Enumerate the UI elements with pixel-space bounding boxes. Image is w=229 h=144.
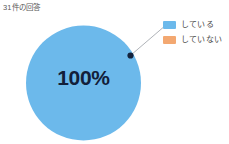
legend-label-shiteiru: している — [181, 20, 214, 30]
legend-label-shiteinai: していない — [181, 35, 222, 45]
legend-swatch-shiteiru-icon — [163, 21, 176, 29]
legend-item-shiteiru[interactable]: している — [163, 19, 222, 30]
pie-slice-shiteiru[interactable] — [26, 26, 141, 141]
pie-chart-card: 31件の回答 100% している していない — [0, 0, 229, 144]
chart-legend: している していない — [163, 19, 222, 45]
legend-item-shiteinai[interactable]: していない — [163, 34, 222, 45]
callout-anchor-dot — [127, 52, 133, 58]
legend-swatch-shiteinai-icon — [163, 36, 176, 44]
callout-leader-line — [131, 25, 166, 55]
